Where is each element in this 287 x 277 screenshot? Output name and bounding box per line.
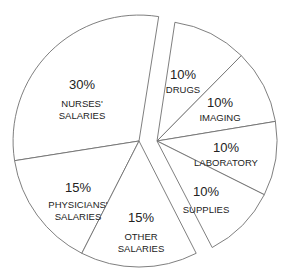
slice-value-label: 10% xyxy=(207,95,233,110)
slice-value-label: 15% xyxy=(128,210,154,225)
slice-category-label: LABORATORY xyxy=(194,157,259,168)
slice-category-label: DRUGS xyxy=(166,84,200,95)
slice-value-label: 10% xyxy=(170,67,196,82)
slice-value-label: 30% xyxy=(69,77,95,92)
slice-category-label: PHYSICIANS' xyxy=(48,199,108,210)
slice-category-label: IMAGING xyxy=(199,112,240,123)
slice-category-label: SUPPLIES xyxy=(183,204,229,215)
slice-category-label: SALARIES xyxy=(118,243,164,254)
slice-value-label: 10% xyxy=(213,140,239,155)
slice-category-label: SALARIES xyxy=(55,211,101,222)
slice-value-label: 15% xyxy=(65,180,91,195)
pie-chart: 30%NURSES'SALARIES15%PHYSICIANS'SALARIES… xyxy=(0,0,287,277)
slice-category-label: NURSES' xyxy=(61,98,103,109)
slice-category-label: SALARIES xyxy=(59,110,105,121)
slice-value-label: 10% xyxy=(193,184,219,199)
slice-category-label: OTHER xyxy=(124,231,157,242)
